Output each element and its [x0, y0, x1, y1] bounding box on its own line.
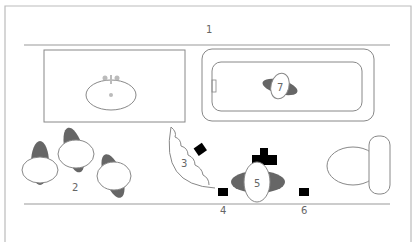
label-4: 4 [220, 205, 226, 216]
label-3: 3 [181, 158, 187, 169]
label-6: 6 [301, 205, 307, 216]
label-1: 1 [206, 24, 212, 35]
stool-left [218, 188, 228, 196]
label-7: 7 [277, 82, 283, 93]
toilet [327, 136, 390, 194]
outer-frame [5, 6, 411, 242]
bathtub [202, 49, 374, 121]
shower-curtain [169, 127, 215, 188]
label-2: 2 [72, 182, 78, 193]
stool-right [299, 188, 309, 196]
person-center [231, 148, 285, 202]
label-5: 5 [254, 178, 260, 189]
black-marker [194, 143, 207, 156]
sink-counter [44, 50, 185, 122]
bathroom-floor-plan: 1 2 3 4 5 6 7 [0, 0, 415, 242]
